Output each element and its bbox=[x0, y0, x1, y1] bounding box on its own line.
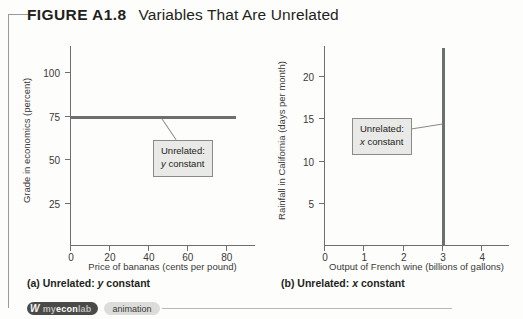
x-tick-a-80: 80 bbox=[226, 246, 227, 251]
y-tick-a-50: 50 bbox=[65, 159, 70, 160]
x-tick-a-20: 20 bbox=[109, 246, 110, 251]
media-bar-rule bbox=[162, 308, 452, 309]
figure-title: Variables That Are Unrelated bbox=[138, 6, 338, 23]
chart-panel-a: Grade in economics (percent) 100 75 50 2… bbox=[18, 40, 266, 272]
logo-text-my: my bbox=[43, 304, 56, 314]
plot-area-a: 100 75 50 25 0 20 40 60 bbox=[70, 46, 255, 246]
logo-text-lab: lab bbox=[78, 304, 92, 314]
x-axis-title-b: Output of French wine (billions of gallo… bbox=[324, 261, 509, 272]
callout-b-line1: Unrelated: bbox=[360, 123, 404, 136]
y-axis-title-b: Rainfall in California (days per month) bbox=[274, 40, 288, 240]
x-axis-line-a bbox=[70, 245, 255, 246]
callout-b-line2: x constant bbox=[360, 136, 404, 149]
frame-left-rule bbox=[8, 14, 9, 308]
callout-leader-b bbox=[408, 124, 443, 130]
figure-number: FIGURE A1.8 bbox=[27, 6, 126, 23]
x-tick-b-4: 4 bbox=[481, 246, 482, 251]
logo-text-econ: econ bbox=[56, 304, 78, 314]
callout-a-line1: Unrelated: bbox=[161, 145, 205, 158]
callout-a-line2: y constant bbox=[161, 158, 205, 171]
myeconlab-mark-icon: W bbox=[30, 303, 40, 314]
y-axis-line-a bbox=[70, 46, 71, 246]
y-tick-a-100: 100 bbox=[65, 72, 70, 73]
myeconlab-logo[interactable]: Wmyeconlab bbox=[27, 302, 98, 315]
x-axis-title-a: Price of bananas (cents per pound) bbox=[70, 261, 255, 272]
y-tick-b-20: 20 bbox=[319, 76, 324, 77]
panel-caption-a: (a) Unrelated: y constant bbox=[27, 277, 150, 289]
panel-caption-b: (b) Unrelated: x constant bbox=[281, 277, 405, 289]
callout-leader-a bbox=[161, 118, 176, 140]
y-axis-title-a: Grade in economics (percent) bbox=[20, 40, 34, 240]
x-tick-b-2: 2 bbox=[403, 246, 404, 251]
y-tick-b-10: 10 bbox=[319, 161, 324, 162]
animation-pill[interactable]: animation bbox=[104, 302, 159, 315]
plot-area-b: 20 15 10 5 0 1 2 3 bbox=[324, 46, 509, 246]
y-tick-a-25: 25 bbox=[65, 203, 70, 204]
y-tick-b-5: 5 bbox=[319, 203, 324, 204]
data-line-y-constant bbox=[70, 116, 236, 119]
figure-container: FIGURE A1.8Variables That Are Unrelated … bbox=[0, 0, 523, 319]
x-tick-a-0: 0 bbox=[70, 246, 71, 251]
x-tick-a-60: 60 bbox=[187, 246, 188, 251]
y-tick-b-15: 15 bbox=[319, 118, 324, 119]
media-bar: Wmyeconlab animation bbox=[27, 301, 452, 316]
x-tick-b-1: 1 bbox=[363, 246, 364, 251]
x-tick-b-3: 3 bbox=[442, 246, 443, 251]
callout-a: Unrelated: y constant Unrelated: y const… bbox=[153, 140, 213, 177]
y-axis-line-b bbox=[324, 46, 325, 246]
x-tick-a-40: 40 bbox=[148, 246, 149, 251]
figure-header: FIGURE A1.8Variables That Are Unrelated bbox=[27, 6, 339, 24]
callout-b: Unrelated: x constant Unrelated: x const… bbox=[352, 118, 412, 155]
data-line-x-constant bbox=[442, 48, 445, 246]
chart-panel-b: Rainfall in California (days per month) … bbox=[272, 40, 520, 272]
x-tick-b-0: 0 bbox=[324, 246, 325, 251]
